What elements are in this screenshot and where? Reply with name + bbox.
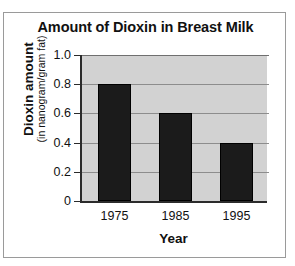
y-axis-title: (in nanogram/gram fat) Dioxin amount — [13, 9, 55, 169]
chart-figure: Amount of Dioxin in Breast Milk (in nano… — [3, 12, 286, 258]
y-axis-tick-label: 0.6 — [54, 106, 71, 120]
bar — [98, 84, 131, 201]
y-axis-tick-label: 0.4 — [54, 136, 71, 150]
y-axis-tick — [74, 55, 80, 56]
y-axis-title-main: Dioxin amount — [21, 42, 36, 136]
x-axis-tick-label: 1975 — [101, 209, 129, 223]
bar — [159, 113, 192, 201]
y-axis-tick-label: 1.0 — [54, 48, 71, 62]
y-axis-tick-label: 0.8 — [54, 77, 71, 91]
y-axis-tick — [74, 84, 80, 85]
x-axis-tick-label: 1985 — [162, 209, 190, 223]
gridline — [82, 55, 269, 56]
bar — [220, 143, 253, 201]
y-axis-tick — [74, 143, 80, 144]
y-axis-tick — [74, 113, 80, 114]
x-axis-tick-label: 1995 — [223, 209, 251, 223]
y-axis-tick-label: 0.2 — [54, 165, 71, 179]
y-axis-tick — [74, 172, 80, 173]
x-axis-title: Year — [80, 231, 267, 246]
y-axis-tick — [74, 201, 80, 202]
plot-wrap: 00.20.40.60.81.0197519851995 — [80, 55, 267, 203]
y-axis-title-units: (in nanogram/gram fat) — [36, 36, 48, 143]
y-axis-tick-label: 0 — [64, 194, 71, 208]
